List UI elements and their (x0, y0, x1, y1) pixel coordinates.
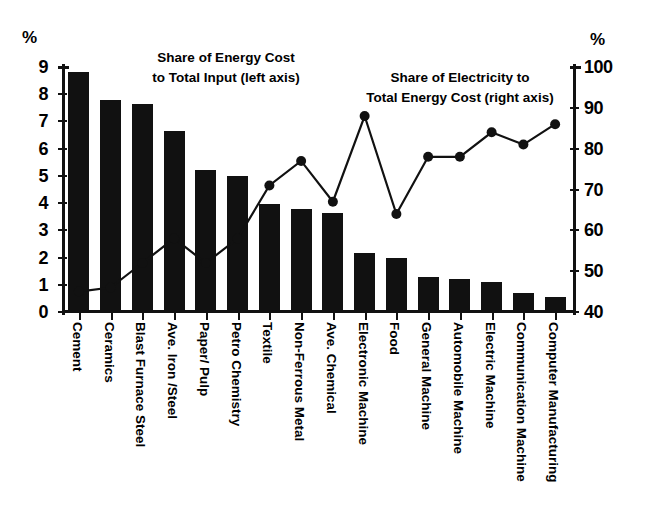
category-label: Ave. Iron /Steel (165, 322, 180, 419)
category-label: Textile (260, 322, 275, 364)
x-axis-tick (79, 313, 81, 320)
x-axis-tick (365, 313, 367, 320)
category-label: Automobile Machine (451, 322, 466, 454)
x-axis-tick (555, 313, 557, 320)
category-label: Computer Manufacturing (546, 322, 561, 483)
category-label: Communication Machine (514, 322, 529, 482)
left-axis-tick-label: 5 (20, 167, 48, 185)
line-data-point (328, 197, 338, 207)
left-axis-tick-label: 2 (20, 249, 48, 267)
left-axis-tick-label: 6 (20, 140, 48, 158)
line-path (79, 116, 555, 292)
line-data-point (518, 140, 528, 150)
x-axis-tick (206, 313, 208, 320)
left-axis-tick-label: 0 (20, 303, 48, 321)
category-label: Ceramics (102, 322, 117, 383)
annotation-energy-cost: Share of Energy Cost to Total Input (lef… (108, 48, 344, 87)
right-axis-tick (570, 148, 579, 150)
category-label: Cement (70, 322, 85, 372)
line-data-point (455, 152, 465, 162)
right-axis-tick-label: 50 (584, 262, 624, 280)
line-data-point (74, 287, 84, 297)
x-axis-tick (333, 313, 335, 320)
right-axis-tick (570, 107, 579, 109)
x-axis-tick (238, 313, 240, 320)
category-label: Food (387, 322, 402, 355)
x-axis-tick (301, 313, 303, 320)
left-axis-tick-label: 7 (20, 112, 48, 130)
x-axis-tick (142, 313, 144, 320)
line-data-point (264, 180, 274, 190)
category-label: Electric Machine (483, 322, 498, 429)
left-axis-unit-label: % (22, 28, 37, 48)
chart-container: % % 0123456789 405060708090100 CementCer… (0, 0, 649, 516)
x-axis-tick (174, 313, 176, 320)
right-axis-tick-label: 60 (584, 221, 624, 239)
x-axis-tick (492, 313, 494, 320)
line-data-point (487, 127, 497, 137)
line-data-point (423, 152, 433, 162)
right-axis-unit-label: % (590, 30, 605, 50)
line-data-point (137, 258, 147, 268)
left-axis-tick-label: 1 (20, 276, 48, 294)
right-axis-tick-label: 70 (584, 181, 624, 199)
category-label: Electronic Machine (356, 322, 371, 445)
category-label: Petro Chemistry (229, 322, 244, 426)
right-axis-tick (570, 311, 579, 313)
line-data-point (106, 283, 116, 293)
x-axis-tick (111, 313, 113, 320)
category-label: General Machine (419, 322, 434, 430)
right-axis-tick-label: 90 (584, 99, 624, 117)
x-axis-tick (428, 313, 430, 320)
annotation-electricity: Share of Electricity to Total Energy Cos… (338, 68, 582, 107)
x-axis-tick (396, 313, 398, 320)
line-data-point (169, 234, 179, 244)
left-axis-tick-label: 3 (20, 221, 48, 239)
category-label: Non-Ferrous Metal (292, 322, 307, 441)
line-data-point (296, 156, 306, 166)
line-data-point (233, 234, 243, 244)
line-data-point (201, 258, 211, 268)
line-data-point (550, 119, 560, 129)
right-axis-tick (570, 270, 579, 272)
right-axis-tick-label: 100 (584, 58, 624, 76)
left-axis-tick-label: 8 (20, 85, 48, 103)
x-axis-tick (523, 313, 525, 320)
right-axis-tick-label: 40 (584, 303, 624, 321)
x-axis-tick (460, 313, 462, 320)
right-axis-tick-label: 80 (584, 140, 624, 158)
line-data-point (360, 111, 370, 121)
left-axis-tick-label: 9 (20, 58, 48, 76)
x-axis-tick (269, 313, 271, 320)
left-axis-tick-label: 4 (20, 194, 48, 212)
category-label: Blast Furnace Steel (133, 322, 148, 447)
category-label: Paper/ Pulp (197, 322, 212, 396)
line-data-point (391, 209, 401, 219)
right-axis-tick (570, 189, 579, 191)
category-label: Ave. Chemical (324, 322, 339, 414)
right-axis-tick (570, 229, 579, 231)
